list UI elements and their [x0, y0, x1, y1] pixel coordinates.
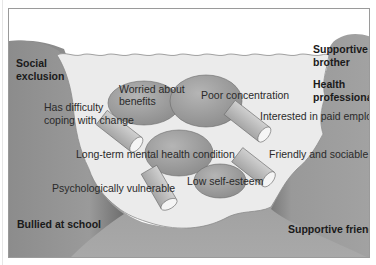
label-paid-employment: Interested in paid employment	[260, 110, 370, 122]
label-health-professionals-1: Health	[313, 78, 345, 90]
label-supportive-friends: Supportive friends	[288, 223, 370, 235]
label-bullied-at-school: Bullied at school	[17, 218, 101, 230]
label-social-exclusion-1: Social	[16, 57, 47, 69]
label-worried-1: Worried about	[119, 83, 185, 95]
label-coping-1: Has difficulty	[44, 101, 104, 113]
label-coping-2: coping with change	[44, 114, 134, 126]
label-health-professionals-2: professionals	[313, 91, 370, 103]
label-poor-concentration: Poor concentration	[201, 89, 289, 101]
river-diagram-frame: Social exclusion Bullied at school Suppo…	[8, 8, 370, 258]
label-worried-2: benefits	[119, 95, 156, 107]
label-psychologically-vulnerable: Psychologically vulnerable	[52, 182, 175, 194]
label-supportive-brother-2: brother	[313, 56, 350, 68]
river-diagram: Social exclusion Bullied at school Suppo…	[9, 9, 370, 258]
label-supportive-brother-1: Supportive	[313, 43, 368, 55]
label-low-self-esteem: Low self-esteem	[187, 175, 264, 187]
page-edge-rule	[2, 0, 3, 265]
label-social-exclusion-2: exclusion	[16, 70, 64, 82]
label-friendly-sociable: Friendly and sociable	[269, 148, 368, 160]
label-mental-health: Long-term mental health condition	[76, 148, 235, 160]
